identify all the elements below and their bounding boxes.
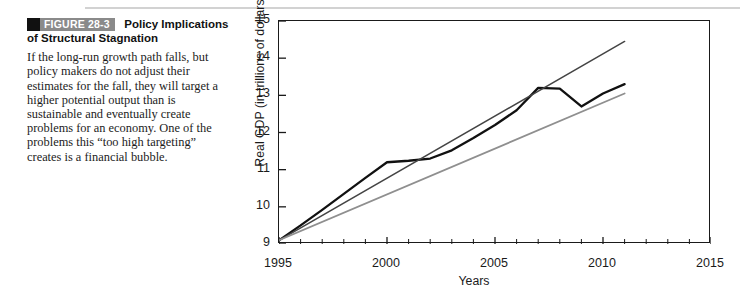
figure-page: FIGURE 28-3 Policy Implications of Struc… — [0, 0, 747, 288]
figure-title-line2: of Structural Stagnation — [27, 32, 235, 45]
plot-svg — [279, 21, 711, 244]
badge-square-icon — [27, 18, 40, 31]
x-axis-title: Years — [414, 274, 534, 288]
top-divider-rule — [85, 7, 740, 9]
y-tick-label: 11 — [240, 161, 270, 175]
x-tick-label: 2005 — [472, 256, 516, 270]
plot-frame — [278, 20, 710, 243]
y-tick-label: 13 — [240, 86, 270, 100]
y-tick-label: 15 — [240, 12, 270, 26]
figure-caption-text: If the long-run growth path falls, but p… — [27, 50, 227, 164]
series-line-2-25-trend — [279, 93, 625, 240]
figure-number-label: FIGURE 28-3 — [40, 18, 115, 31]
y-tick-label: 12 — [240, 124, 270, 138]
figure-number-badge: FIGURE 28-3 — [27, 18, 115, 31]
y-tick-label: 10 — [240, 198, 270, 212]
chart-container: Real GDP (in trillions of dollars) Years… — [236, 10, 736, 288]
x-tick-label: 2010 — [580, 256, 624, 270]
y-tick-label: 9 — [240, 235, 270, 249]
series-line-actual — [279, 84, 625, 240]
x-tick-label: 2000 — [364, 256, 408, 270]
x-tick-label: 2015 — [688, 256, 732, 270]
figure-title-line1: Policy Implications — [124, 18, 228, 30]
figure-caption-block: FIGURE 28-3 Policy Implications of Struc… — [27, 17, 235, 164]
figure-heading: FIGURE 28-3 Policy Implications of Struc… — [27, 17, 235, 45]
y-tick-label: 14 — [240, 49, 270, 63]
series-line-3-trend — [279, 41, 625, 240]
x-tick-label: 1995 — [256, 256, 300, 270]
